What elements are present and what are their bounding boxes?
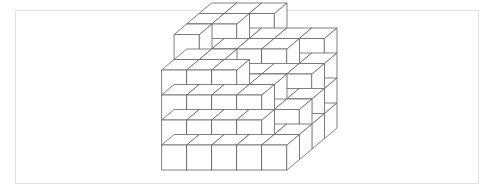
cube-front-face <box>162 145 187 170</box>
cube-front-face <box>262 145 287 170</box>
figure-stage <box>0 0 494 196</box>
cube-front-face <box>187 145 212 170</box>
cube-front-face <box>237 145 262 170</box>
cube-stack-diagram <box>0 0 494 196</box>
cube-group <box>162 3 337 170</box>
cube-front-face <box>212 145 237 170</box>
